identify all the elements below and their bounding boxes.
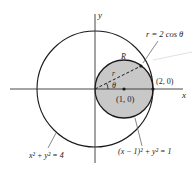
region-label: R [120, 52, 126, 61]
point-on-curve [139, 64, 142, 67]
leader-stray [153, 52, 192, 60]
rightmost-point [151, 87, 154, 90]
leader-inner-circle [135, 118, 142, 146]
rightmost-point-label: (2, 0) [156, 77, 174, 86]
radius-label: r [112, 69, 115, 78]
angle-label: θ [112, 81, 116, 90]
y-axis-label: y [97, 10, 102, 20]
polar-region-diagram: y x r = 2 cos θ R r θ (1, 0) (2, 0) x² +… [0, 0, 194, 177]
center-point [122, 87, 125, 90]
leader-outer-circle [48, 133, 56, 148]
outer-circle-equation: x² + y² = 4 [28, 151, 64, 160]
center-point-label: (1, 0) [116, 94, 135, 104]
x-axis-label: x [181, 90, 186, 100]
polar-curve-label: r = 2 cos θ [146, 29, 183, 39]
inner-circle-equation: (x − 1)² + y² = 1 [118, 147, 171, 156]
